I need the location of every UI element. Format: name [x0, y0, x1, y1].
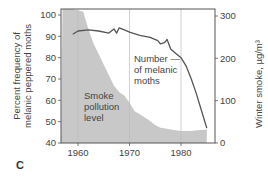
right-tick-label: 0: [220, 137, 225, 148]
right-tick-label: 300: [220, 10, 236, 21]
right-tick-label: 100: [220, 95, 236, 106]
right-axis-title: Winter smoke, µg/m³: [253, 40, 264, 128]
left-tick-label: 50: [45, 116, 56, 127]
left-tick-label: 100: [40, 9, 56, 20]
annotation-line: pollution: [84, 101, 119, 112]
left-axis-title-line: Percent frequency of: [11, 32, 22, 120]
x-tick-label: 1960: [67, 147, 88, 158]
annotation-line: Number —: [134, 53, 180, 64]
annotation-melanic-moths: Number —of melanicmoths: [134, 53, 180, 86]
left-tick-label: 40: [45, 137, 56, 148]
annotation-line: Smoke: [84, 90, 114, 101]
annotation-line: level: [84, 112, 104, 123]
x-tick-label: 1970: [119, 147, 140, 158]
annotation-line: of melanic: [134, 64, 178, 75]
panel-label: C: [16, 159, 24, 171]
left-tick-label: 70: [45, 73, 56, 84]
annotation-line: moths: [134, 75, 160, 86]
left-tick-label: 90: [45, 31, 56, 42]
x-tick-label: 1980: [170, 147, 191, 158]
left-axis-title-line: melanic peppered moths: [22, 24, 33, 128]
left-tick-label: 60: [45, 95, 56, 106]
left-tick-label: 80: [45, 52, 56, 63]
left-axis-title: Percent frequency ofmelanic peppered mot…: [11, 24, 33, 128]
chart: 4050607080901000100200300196019701980Per…: [0, 0, 268, 179]
right-tick-label: 200: [220, 53, 236, 64]
